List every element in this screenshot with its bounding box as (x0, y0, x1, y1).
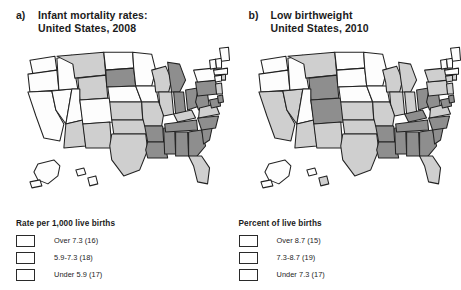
legend-a: Rate per 1,000 live births Over 7.3 (16)… (16, 219, 115, 284)
state-ok-a (112, 120, 148, 134)
panel-b: b) Low birthweight United States, 2010 (231, 0, 461, 290)
panel-a-letter: a) (16, 9, 38, 22)
state-nd-a (104, 52, 134, 70)
legend-b-label-high: Over 8.7 (15) (277, 236, 321, 245)
state-tn-a (165, 120, 198, 132)
state-sd-b (336, 68, 366, 87)
legend-a-row-low: Under 5.9 (17) (16, 267, 115, 282)
state-mn-b (363, 52, 386, 86)
map-b-states (258, 47, 460, 188)
legend-b-row-low: Under 7.3 (17) (239, 267, 325, 282)
state-in-a (174, 92, 186, 114)
state-fl-b (419, 156, 440, 184)
state-nj-b (446, 83, 453, 94)
state-co-a (80, 98, 114, 124)
state-hi-a (76, 168, 86, 176)
state-nd-b (334, 52, 364, 70)
legend-b-swatch-low (239, 269, 258, 281)
legend-b-label-low: Under 7.3 (17) (277, 270, 325, 279)
state-ks-a (110, 102, 143, 120)
state-nh-a (216, 58, 222, 68)
state-de-a (218, 95, 224, 103)
state-nm-a (83, 122, 112, 148)
legend-a-swatch-low (16, 269, 35, 281)
state-in-b (404, 92, 416, 114)
map-a (0, 42, 231, 214)
state-ok-b (342, 120, 378, 134)
state-hi-b (306, 168, 316, 176)
panel-a: a) Infant mortality rates: United States… (0, 0, 231, 290)
panel-b-title: Low birthweight United States, 2010 (271, 9, 369, 35)
figure-container: a) Infant mortality rates: United States… (0, 0, 461, 290)
map-b (231, 42, 461, 214)
state-nh-b (446, 58, 452, 68)
state-nm-b (313, 122, 342, 148)
panel-b-letter: b) (249, 9, 271, 22)
legend-a-title: Rate per 1,000 live births (16, 219, 115, 228)
legend-b: Percent of live births Over 8.7 (15) 7.3… (239, 219, 325, 284)
state-ar-b (375, 126, 394, 142)
legend-a-label-low: Under 5.9 (17) (54, 270, 102, 279)
state-mi-a (168, 62, 186, 92)
state-ma-b (444, 68, 458, 75)
state-nj-a (216, 83, 223, 94)
state-ak-tail-a (30, 180, 42, 188)
state-tn-b (395, 120, 428, 132)
state-me-a (220, 47, 230, 61)
state-sd-a (106, 68, 136, 87)
legend-a-swatch-high (16, 235, 35, 247)
panel-a-title-line2: United States, 2008 (38, 22, 148, 35)
state-pa-a (196, 80, 218, 96)
state-ma-a (214, 68, 228, 75)
legend-b-swatch-mid (239, 252, 258, 264)
panel-a-title: Infant mortality rates: United States, 2… (38, 9, 148, 35)
legend-b-row-high: Over 8.7 (15) (239, 233, 325, 248)
legend-b-label-mid: 7.3-8.7 (19) (277, 253, 316, 262)
legend-b-title: Percent of live births (239, 219, 325, 228)
panel-b-title-line2: United States, 2010 (271, 22, 369, 35)
legend-b-swatch-high (239, 235, 258, 247)
map-a-states (28, 47, 230, 188)
legend-a-label-mid: 5.9-7.3 (18) (54, 253, 93, 262)
state-wy-b (308, 75, 338, 100)
panel-a-title-line1: Infant mortality rates: (38, 9, 148, 21)
state-ak-tail-b (260, 180, 272, 188)
state-tx-b (340, 134, 378, 176)
panel-a-header: a) Infant mortality rates: United States… (0, 0, 231, 35)
state-ct-a (215, 75, 222, 82)
legend-a-swatch-mid (16, 252, 35, 264)
state-co-b (310, 98, 344, 124)
state-or-b (258, 70, 289, 92)
state-wy-a (78, 75, 108, 100)
state-ar-a (145, 126, 164, 142)
state-or-a (28, 70, 59, 92)
legend-a-row-mid: 5.9-7.3 (18) (16, 250, 115, 265)
state-ks-b (340, 102, 373, 120)
legend-a-label-high: Over 7.3 (16) (54, 236, 98, 245)
state-al-a (176, 132, 189, 156)
state-de-b (448, 95, 454, 103)
state-mn-a (133, 52, 156, 86)
panel-b-title-line1: Low birthweight (271, 9, 353, 21)
state-tx-a (110, 134, 148, 176)
state-al-b (406, 132, 419, 156)
state-fl-a (189, 156, 210, 184)
panel-b-header: b) Low birthweight United States, 2010 (231, 0, 461, 35)
state-mi-b (398, 62, 416, 92)
legend-a-row-high: Over 7.3 (16) (16, 233, 115, 248)
state-hi2-b (318, 176, 328, 186)
state-hi2-a (88, 176, 98, 186)
state-me-b (450, 47, 460, 61)
legend-b-row-mid: 7.3-8.7 (19) (239, 250, 325, 265)
state-ct-b (445, 75, 452, 82)
state-pa-b (426, 80, 448, 96)
